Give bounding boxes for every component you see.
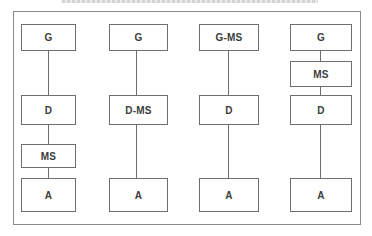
connector-line [136, 124, 137, 178]
connector-line [320, 124, 321, 178]
figure-title-cropped [62, 0, 318, 3]
box-ms: MS [21, 144, 76, 168]
box-d: D [199, 95, 259, 125]
box-a: A [21, 178, 76, 212]
box-d-ms: D-MS [109, 95, 168, 125]
box-g: G [109, 24, 168, 51]
connector-line [228, 50, 229, 95]
box-a: A [199, 178, 259, 212]
box-a: A [290, 178, 352, 212]
connector-line [48, 124, 49, 144]
box-g-ms: G-MS [199, 24, 259, 51]
box-g: G [21, 24, 76, 51]
box-d: D [21, 95, 76, 125]
connector-line [320, 86, 321, 95]
connector-line [228, 124, 229, 178]
connector-line [48, 50, 49, 95]
connector-line [136, 50, 137, 95]
connector-line [320, 50, 321, 61]
connector-line [48, 167, 49, 178]
box-d: D [290, 95, 352, 125]
box-a: A [109, 178, 168, 212]
box-ms: MS [290, 61, 352, 87]
box-g: G [290, 24, 352, 51]
